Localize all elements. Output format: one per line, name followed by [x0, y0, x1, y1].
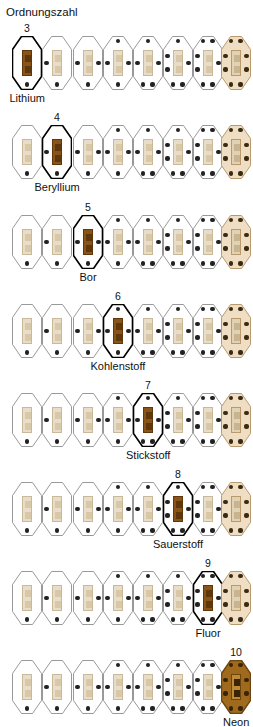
atom-cell[interactable]	[193, 36, 223, 90]
valence-electron-dot	[105, 329, 109, 333]
atom-cell[interactable]	[42, 393, 72, 447]
atom-cell[interactable]	[73, 571, 103, 625]
atom-cell[interactable]	[193, 125, 223, 179]
atom-cell[interactable]	[221, 571, 251, 625]
atom-cell[interactable]	[42, 571, 72, 625]
inner-shell-square	[116, 323, 122, 330]
atom-nucleus-core	[203, 585, 213, 611]
atom-cell[interactable]	[73, 660, 103, 714]
inner-shell-square	[234, 512, 240, 519]
atom-cell[interactable]	[221, 304, 251, 358]
atom-cell[interactable]	[12, 393, 42, 447]
atom-cell[interactable]	[12, 215, 42, 269]
inner-shell-square	[234, 423, 240, 430]
valence-electron-dot	[210, 82, 214, 86]
atom-cell[interactable]	[163, 36, 193, 90]
atom-cell-highlighted[interactable]	[221, 660, 251, 714]
valence-electron-dot	[210, 218, 214, 222]
atom-cell[interactable]	[103, 482, 133, 536]
atom-cell[interactable]	[133, 660, 163, 714]
valence-electron-dot	[156, 329, 160, 333]
atom-cell[interactable]	[163, 660, 193, 714]
atom-cell[interactable]	[163, 215, 193, 269]
atom-cell[interactable]	[133, 215, 163, 269]
atom-cell[interactable]	[221, 215, 251, 269]
atom-cell[interactable]	[42, 660, 72, 714]
valence-electron-dot	[126, 150, 130, 154]
inner-shell-square	[116, 690, 122, 697]
atom-cell[interactable]	[133, 482, 163, 536]
valence-electron-dot	[238, 128, 242, 132]
inner-shell-square	[25, 334, 31, 341]
atom-cell[interactable]	[221, 482, 251, 536]
atom-nucleus-core	[203, 496, 213, 522]
atom-cell-highlighted[interactable]	[12, 36, 42, 90]
atom-cell[interactable]	[103, 393, 133, 447]
atom-cell[interactable]	[103, 36, 133, 90]
valence-electron-dot	[186, 596, 190, 600]
atom-cell[interactable]	[12, 571, 42, 625]
atom-cell[interactable]	[163, 571, 193, 625]
valence-electron-dot	[216, 150, 220, 154]
atom-nucleus-core	[113, 496, 123, 522]
atom-cell[interactable]	[12, 660, 42, 714]
atom-cell[interactable]	[103, 215, 133, 269]
atom-cell[interactable]	[103, 125, 133, 179]
atom-cell-highlighted[interactable]	[193, 571, 223, 625]
inner-shell-square	[86, 334, 92, 341]
atom-cell[interactable]	[12, 304, 42, 358]
atom-cell[interactable]	[163, 304, 193, 358]
atom-cell[interactable]	[73, 393, 103, 447]
valence-electron-dot	[44, 150, 48, 154]
element-name-label: Neon	[223, 716, 249, 727]
inner-shell-square	[55, 55, 61, 62]
atom-cell[interactable]	[133, 571, 163, 625]
atom-cell[interactable]	[193, 660, 223, 714]
valence-electron-dot	[201, 617, 205, 621]
atom-cell-highlighted[interactable]	[103, 304, 133, 358]
valence-electron-dot	[86, 171, 90, 175]
atom-cell[interactable]	[163, 393, 193, 447]
atom-cell[interactable]	[193, 304, 223, 358]
atom-cell-highlighted[interactable]	[163, 482, 193, 536]
valence-electron-dot	[238, 706, 242, 710]
atom-cell[interactable]	[221, 393, 251, 447]
atom-shell-diagram: Ordnungszahl 3Lithium4Beryllium5Bor6Kohl…	[0, 0, 253, 727]
atom-cell[interactable]	[221, 125, 251, 179]
valence-electron-dot	[55, 171, 59, 175]
atom-cell[interactable]	[73, 36, 103, 90]
valence-electron-dot	[25, 528, 29, 532]
atom-cell[interactable]	[12, 482, 42, 536]
atom-cell-highlighted[interactable]	[42, 125, 72, 179]
inner-shell-square	[116, 334, 122, 341]
atom-cell-highlighted[interactable]	[73, 215, 103, 269]
inner-shell-square	[116, 423, 122, 430]
inner-shell-square	[55, 501, 61, 508]
valence-electron-dot	[223, 678, 227, 682]
atom-cell[interactable]	[42, 215, 72, 269]
valence-electron-dot	[165, 67, 169, 71]
valence-electron-dot	[210, 706, 214, 710]
atom-cell[interactable]	[103, 660, 133, 714]
atom-cell[interactable]	[133, 36, 163, 90]
atom-cell[interactable]	[73, 482, 103, 536]
inner-shell-square	[146, 412, 152, 419]
atom-cell[interactable]	[42, 36, 72, 90]
atom-cell[interactable]	[12, 125, 42, 179]
atom-cell-highlighted[interactable]	[133, 393, 163, 447]
atom-cell[interactable]	[193, 393, 223, 447]
atom-cell[interactable]	[73, 125, 103, 179]
atom-cell[interactable]	[221, 36, 251, 90]
atom-cell[interactable]	[133, 304, 163, 358]
atom-cell[interactable]	[42, 482, 72, 536]
atom-cell[interactable]	[103, 571, 133, 625]
inner-shell-square	[234, 155, 240, 162]
atom-cell[interactable]	[42, 304, 72, 358]
atom-cell[interactable]	[133, 125, 163, 179]
atom-cell[interactable]	[163, 125, 193, 179]
atom-cell[interactable]	[193, 482, 223, 536]
atom-cell[interactable]	[193, 215, 223, 269]
atom-cell[interactable]	[73, 304, 103, 358]
inner-shell-square	[176, 590, 182, 597]
inner-shell-square	[206, 501, 212, 508]
